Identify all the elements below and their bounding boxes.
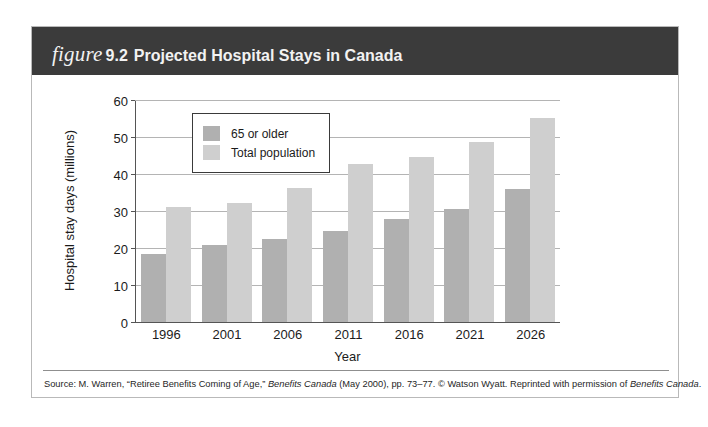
bar-senior <box>505 189 530 322</box>
x-tick-labels: 1996200120062011201620212026 <box>136 327 561 342</box>
chart-area: Hospital stay days (millions) 0102030405… <box>32 75 678 371</box>
bar-total <box>287 188 312 322</box>
y-axis-title: Hospital stay days (millions) <box>62 111 77 311</box>
x-axis-line <box>135 322 560 323</box>
y-tick-label: 50 <box>114 131 128 146</box>
x-tick-label: 2006 <box>257 327 318 342</box>
legend-label-total: Total population <box>231 146 315 160</box>
y-tick-label: 10 <box>114 279 128 294</box>
source-middle: (May 2000), pp. 73–77. © Watson Wyatt. R… <box>337 379 630 389</box>
source-italic-journal-1: Benefits Canada <box>268 379 337 389</box>
y-tick-label: 0 <box>121 316 128 331</box>
source-prefix: Source: M. Warren, “Retiree Benefits Com… <box>44 379 268 389</box>
source-italic-journal-2: Benefits Canada <box>630 379 699 389</box>
figure-container: figure9.2Projected Hospital Stays in Can… <box>31 26 679 398</box>
figure-caption: figure9.2Projected Hospital Stays in Can… <box>52 42 402 67</box>
legend-swatch-icon-total <box>203 145 220 160</box>
x-tick-label: 2021 <box>440 327 501 342</box>
x-tick-label: 2016 <box>379 327 440 342</box>
bar-total <box>227 203 252 322</box>
x-tick-label: 1996 <box>136 327 197 342</box>
legend-label-senior: 65 or older <box>231 127 288 141</box>
bar-group <box>136 101 197 322</box>
figure-number: 9.2 <box>106 47 128 64</box>
y-tick-label: 60 <box>114 94 128 109</box>
figure-header-band: figure9.2Projected Hospital Stays in Can… <box>32 27 678 75</box>
bar-group <box>378 101 439 322</box>
bar-senior <box>323 231 348 322</box>
source-suffix: . <box>699 379 702 389</box>
bar-total <box>530 118 555 322</box>
chart-legend: 65 or older Total population <box>192 113 330 173</box>
bar-total <box>409 157 434 322</box>
source-note: Source: M. Warren, “Retiree Benefits Com… <box>44 377 670 391</box>
bar-total <box>348 164 373 322</box>
x-tick-label: 2026 <box>500 327 561 342</box>
y-tick-label: 40 <box>114 168 128 183</box>
bar-senior <box>202 245 227 322</box>
legend-item-senior: 65 or older <box>203 126 315 141</box>
page-canvas: figure9.2Projected Hospital Stays in Can… <box>0 0 708 427</box>
x-axis-title: Year <box>135 349 560 364</box>
bar-total <box>469 142 494 322</box>
y-tick-label: 20 <box>114 242 128 257</box>
figure-label-word: figure <box>52 42 103 66</box>
legend-swatch-icon-senior <box>203 126 220 141</box>
bar-senior <box>444 209 469 322</box>
x-tick-label: 2001 <box>197 327 258 342</box>
bar-group <box>439 101 500 322</box>
source-divider <box>43 370 669 371</box>
bar-senior <box>262 239 287 322</box>
legend-item-total: Total population <box>203 145 315 160</box>
bar-group <box>499 101 560 322</box>
bar-senior <box>141 254 166 322</box>
bar-senior <box>384 219 409 322</box>
figure-title: Projected Hospital Stays in Canada <box>134 47 403 64</box>
x-tick-label: 2011 <box>318 327 379 342</box>
bar-total <box>166 207 191 322</box>
y-tick-label: 30 <box>114 205 128 220</box>
